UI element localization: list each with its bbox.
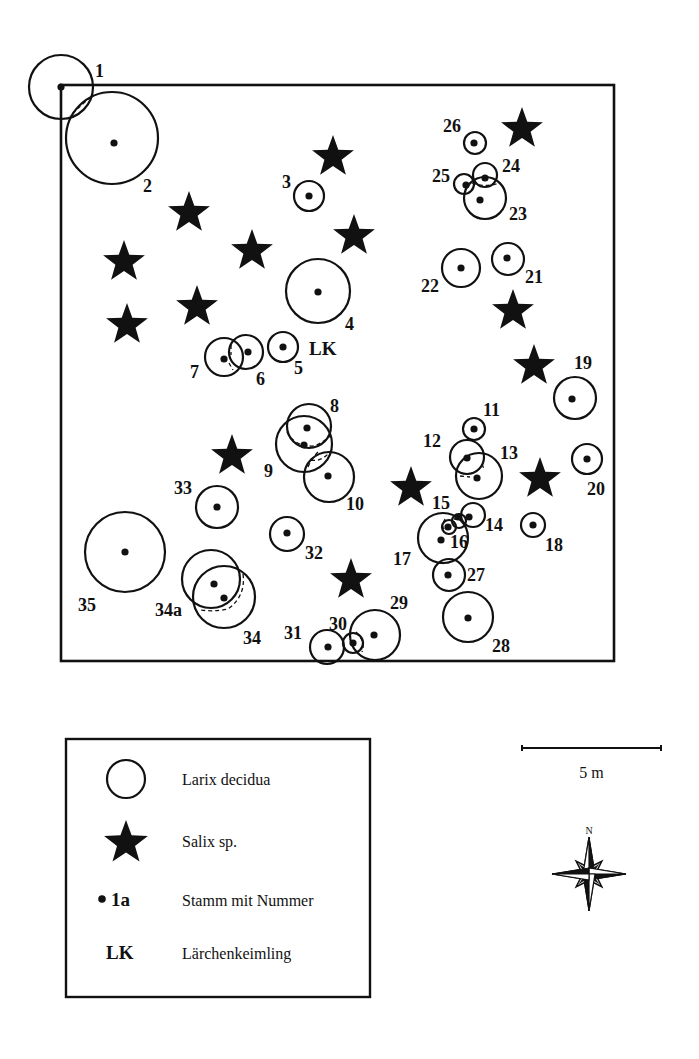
salix-star-icon bbox=[176, 285, 218, 325]
tree-label-14: 14 bbox=[485, 515, 503, 535]
stem-dot-8 bbox=[303, 424, 310, 431]
stem-dot-5 bbox=[279, 343, 286, 350]
tree-label-25: 25 bbox=[432, 166, 450, 186]
compass-point bbox=[552, 874, 589, 880]
tree-label-9: 9 bbox=[264, 461, 273, 481]
salix-star-icon bbox=[312, 135, 354, 175]
salix-star-icon bbox=[492, 289, 534, 329]
stem-dot-25 bbox=[462, 181, 469, 188]
stem-dot-16 bbox=[444, 523, 451, 530]
tree-label-11: 11 bbox=[483, 400, 500, 420]
tree-label-1: 1 bbox=[95, 61, 104, 81]
stem-dot-3 bbox=[305, 192, 312, 199]
stem-dot-10 bbox=[324, 472, 331, 479]
tree-label-23: 23 bbox=[509, 204, 527, 224]
tree-label-32: 32 bbox=[305, 543, 323, 563]
tree-label-6: 6 bbox=[256, 369, 265, 389]
stem-dot-32 bbox=[283, 529, 290, 536]
compass-point bbox=[589, 868, 626, 874]
legend: Larix decidua Salix sp. 1a Stamm mit Num… bbox=[66, 739, 370, 997]
compass-rose-icon: N bbox=[552, 825, 626, 911]
stem-dot-24 bbox=[481, 174, 488, 181]
compass-point bbox=[589, 874, 595, 911]
salix-star-icon bbox=[211, 434, 253, 474]
tree-label-31: 31 bbox=[284, 623, 302, 643]
stem-dot-2 bbox=[110, 139, 117, 146]
legend-circle-icon bbox=[107, 760, 145, 798]
stem-dot-7 bbox=[220, 355, 227, 362]
stem-dot-12 bbox=[463, 454, 470, 461]
stem-dot-28 bbox=[464, 614, 471, 621]
salix-star-icon bbox=[168, 191, 210, 231]
stem-dot-17 bbox=[437, 536, 444, 543]
scale-bar: 5 m bbox=[522, 745, 661, 781]
stem-dot-26 bbox=[470, 139, 477, 146]
legend-star-icon bbox=[104, 820, 148, 862]
crown-overlap-line bbox=[308, 452, 318, 467]
tree-label-17: 17 bbox=[393, 549, 411, 569]
stem-dot-15 bbox=[454, 513, 461, 520]
tree-label-10: 10 bbox=[346, 494, 364, 514]
larix-crown-34a bbox=[182, 550, 240, 608]
stem-dot-33 bbox=[213, 503, 220, 510]
tree-label-35: 35 bbox=[78, 595, 96, 615]
tree-label-29: 29 bbox=[390, 593, 408, 613]
legend-label-salix: Salix sp. bbox=[182, 833, 237, 851]
stem-dot-11 bbox=[470, 425, 477, 432]
stem-dot-1 bbox=[57, 83, 64, 90]
compass-point bbox=[552, 868, 589, 874]
legend-label-seedling: Lärchenkeimling bbox=[182, 945, 291, 963]
salix-star-icon bbox=[330, 558, 372, 598]
tree-label-33: 33 bbox=[174, 478, 192, 498]
stem-dot-9 bbox=[300, 441, 307, 448]
salix-star-icon bbox=[519, 457, 561, 497]
stem-dot-20 bbox=[583, 455, 590, 462]
legend-symbol-1a: 1a bbox=[111, 889, 131, 910]
tree-label-34a: 34a bbox=[155, 600, 182, 620]
tree-label-2: 2 bbox=[143, 176, 152, 196]
stem-dot-23 bbox=[476, 196, 483, 203]
stem-dot-19 bbox=[568, 395, 575, 402]
tree-label-12: 12 bbox=[423, 431, 441, 451]
legend-label-stem: Stamm mit Nummer bbox=[182, 892, 314, 909]
stem-dot-13 bbox=[473, 474, 480, 481]
crown-overlap-line bbox=[287, 432, 330, 446]
tree-label-20: 20 bbox=[587, 479, 605, 499]
tree-label-15: 15 bbox=[432, 493, 450, 513]
tree-distribution-map: 1234567891011121314151617181920212223242… bbox=[0, 0, 699, 1059]
stem-dot-30 bbox=[349, 639, 356, 646]
legend-stem-dot-icon bbox=[98, 895, 106, 903]
larix-crown-23 bbox=[464, 177, 506, 219]
legend-label-larix: Larix decidua bbox=[182, 771, 270, 788]
salix-star-icon bbox=[513, 344, 555, 384]
tree-label-4: 4 bbox=[345, 314, 354, 334]
tree-label-5: 5 bbox=[294, 358, 303, 378]
tree-label-3: 3 bbox=[282, 172, 291, 192]
scale-bar-label: 5 m bbox=[579, 764, 604, 781]
stem-dot-27 bbox=[444, 571, 451, 578]
study-plot: 1234567891011121314151617181920212223242… bbox=[29, 55, 614, 664]
tree-label-28: 28 bbox=[492, 636, 510, 656]
stem-dot-14 bbox=[465, 513, 472, 520]
tree-label-8: 8 bbox=[330, 396, 339, 416]
salix-star-icon bbox=[501, 107, 543, 147]
tree-label-13: 13 bbox=[500, 443, 518, 463]
stem-dot-4 bbox=[314, 288, 321, 295]
stem-dot-35 bbox=[121, 548, 128, 555]
tree-label-21: 21 bbox=[525, 267, 543, 287]
tree-label-19: 19 bbox=[574, 353, 592, 373]
stem-dot-34a bbox=[210, 580, 217, 587]
stem-dot-34 bbox=[220, 594, 227, 601]
seedling-label-lk: LK bbox=[309, 338, 337, 359]
tree-label-34: 34 bbox=[243, 628, 261, 648]
stem-dot-29 bbox=[370, 631, 377, 638]
tree-label-30: 30 bbox=[329, 614, 347, 634]
compass-north-label: N bbox=[585, 825, 592, 836]
tree-label-26: 26 bbox=[443, 116, 461, 136]
salix-star-icon bbox=[231, 229, 273, 269]
tree-label-27: 27 bbox=[467, 565, 485, 585]
stem-dot-21 bbox=[503, 254, 510, 261]
tree-label-16: 16 bbox=[450, 532, 468, 552]
salix-star-icon bbox=[103, 240, 145, 280]
tree-label-7: 7 bbox=[190, 362, 199, 382]
